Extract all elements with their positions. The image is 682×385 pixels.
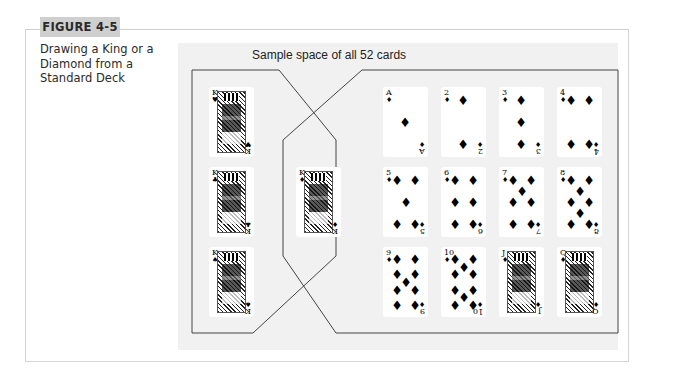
diamond-icon: ♦ [419,140,425,147]
diamond-icon: ♦ [502,97,508,104]
diamond-icon: ♦ [477,220,483,227]
diamond-icon: ♦ [400,196,413,209]
diamond-icon: ♦ [457,138,470,151]
diamond-icon: ♦ [515,94,528,107]
diamond-icon: ♦ [449,299,462,312]
card-two-of-diamonds: 2 ♦ ♦ ♦ ♦ 2 [441,87,486,157]
diamond-icon: ♦ [467,268,480,281]
king-face-art [217,251,246,313]
diamond-icon: ♦ [391,284,404,297]
diamond-icon: ♦ [391,299,404,312]
diamond-icon: ♦ [515,138,528,151]
card-rank: 3 [536,147,541,155]
card-rank: J [538,307,541,315]
diamond-icon: ♦ [449,268,462,281]
diamond-icon: ♦ [467,174,480,187]
diamond-icon: ♦ [593,300,599,307]
diamond-icon: ♦ [565,94,578,107]
card-jack-of-diamonds: J ♦ ♦ J [499,247,544,317]
diamond-icon: ♦ [409,253,422,266]
card-four-of-diamonds: 4 ♦ ♦ ♦ ♦ ♦ ♦ 4 [557,87,602,157]
card-rank: 6 [478,227,483,235]
diamond-icon: ♦ [515,116,528,129]
diamond-icon: ♦ [391,174,404,187]
card-king-of-spades: K ♠ ♠ K [209,247,254,317]
diamond-icon: ♦ [449,174,462,187]
card-seven-of-diamonds: 7 ♦ ♦ ♦ ♦ ♦ ♦ ♦ ♦ ♦ 7 [499,167,544,237]
king-face-art [217,91,246,153]
queen-face-art [565,251,594,313]
diamond-icon: ♦ [391,253,404,266]
diamond-icon: ♦ [409,284,422,297]
card-rank: 5 [420,227,425,235]
diamond-icon: ♦ [583,94,596,107]
card-rank: 9 [420,307,425,315]
diamond-icon: ♦ [565,138,578,151]
diamond-icon: ♦ [457,94,470,107]
diamond-icon: ♦ [449,218,462,231]
card-rank: K [245,147,251,155]
card-rank: A [419,147,425,155]
diamond-icon: ♦ [467,196,480,209]
diamond-icon: ♦ [535,140,541,147]
card-rank: K [245,227,251,235]
card-six-of-diamonds: 6 ♦ ♦ ♦ ♦ ♦ ♦ ♦ ♦ 6 [441,167,486,237]
diamond-icon: ♦ [507,218,520,231]
king-face-art [304,171,333,233]
card-rank: Q [592,307,599,315]
card-queen-of-diamonds: Q ♦ ♦ Q [557,247,602,317]
diamond-icon: ♦ [444,97,450,104]
diamond-icon: ♦ [419,220,425,227]
card-eight-of-diamonds: 8 ♦ ♦ ♦ ♦ ♦ ♦ ♦ ♦ ♦ ♦ 8 [557,167,602,237]
jack-face-art [507,251,536,313]
diamond-icon: ♦ [409,174,422,187]
club-icon: ♣ [245,220,251,227]
diamond-icon: ♦ [593,220,599,227]
card-king-of-diamonds: K ♦ ♦ K [296,167,341,237]
diamond-icon: ♦ [449,196,462,209]
diamond-icon: ♦ [391,218,404,231]
diamond-icon: ♦ [507,196,520,209]
diamond-icon: ♦ [593,140,599,147]
diamond-icon: ♦ [535,300,541,307]
spade-icon: ♠ [245,300,251,307]
heart-icon: ♥ [245,140,251,147]
card-rank: K [245,307,251,315]
card-ten-of-diamonds: 10 ♦ ♦ ♦ ♦ ♦ ♦ ♦ ♦ ♦ ♦ ♦ ♦ 10 [441,247,486,317]
card-king-of-hearts: K ♥ ♥ K [209,87,254,157]
card-rank: 2 [478,147,483,155]
card-five-of-diamonds: 5 ♦ ♦ ♦ ♦ ♦ ♦ ♦ 5 [383,167,428,237]
card-ace-of-diamonds: A ♦ ♦ ♦ A [383,87,428,157]
diamond-icon: ♦ [419,300,425,307]
card-rank: 4 [594,147,599,155]
diamond-icon: ♦ [565,218,578,231]
diamond-icon: ♦ [386,97,392,104]
card-three-of-diamonds: 3 ♦ ♦ ♦ ♦ ♦ 3 [499,87,544,157]
diamond-icon: ♦ [535,220,541,227]
diamond-icon: ♦ [477,140,483,147]
diamond-icon: ♦ [525,196,538,209]
card-rank: K [332,227,338,235]
card-rank: 7 [536,227,541,235]
card-rank: 8 [594,227,599,235]
card-rank: 10 [473,307,483,315]
king-face-art [217,171,246,233]
diamond-icon: ♦ [477,300,483,307]
card-king-of-clubs: K ♣ ♣ K [209,167,254,237]
diamond-icon: ♦ [332,220,338,227]
card-nine-of-diamonds: 9 ♦ ♦ ♦ ♦ ♦ ♦ ♦ ♦ ♦ ♦ ♦ 9 [383,247,428,317]
diamond-icon: ♦ [399,116,412,129]
